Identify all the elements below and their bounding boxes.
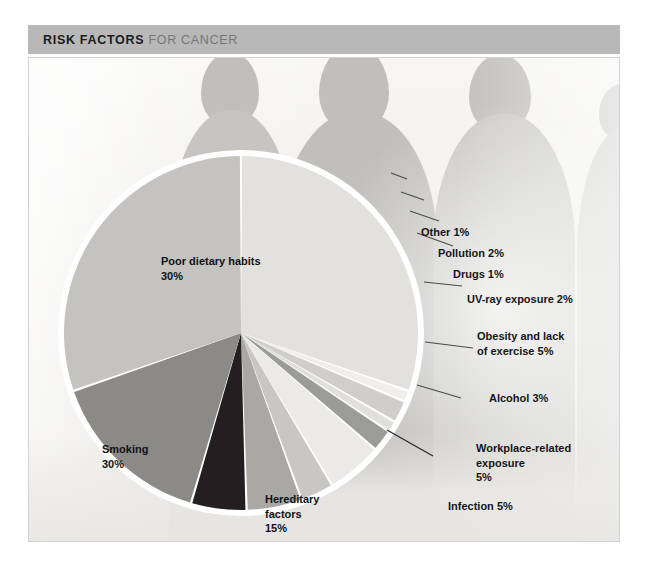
page-title: RISK FACTORS FOR CANCER <box>43 33 238 47</box>
slice-label-smoking: Smoking 30% <box>102 442 148 471</box>
page-title-strong: RISK FACTORS <box>43 33 144 47</box>
slice-label-other: Other 1% <box>421 225 469 240</box>
slice-label-infection: Infection 5% <box>448 499 513 514</box>
slice-label-poor-dietary-habits: Poor dietary habits 30% <box>161 254 261 283</box>
slice-label-uv-ray-exposure: UV-ray exposure 2% <box>467 292 573 307</box>
figure-panel: Poor dietary habits 30% Smoking 30% Here… <box>28 57 620 542</box>
slice-label-hereditary-factors: Hereditary factors 15% <box>265 492 319 536</box>
figure-header-bar: RISK FACTORS FOR CANCER <box>28 25 620 54</box>
slice-label-obesity: Obesity and lack of exercise 5% <box>477 329 564 358</box>
slice-label-alcohol: Alcohol 3% <box>489 391 548 406</box>
slice-label-pollution: Pollution 2% <box>438 246 504 261</box>
slice-label-drugs: Drugs 1% <box>453 267 504 282</box>
figure-page: RISK FACTORS FOR CANCER <box>0 0 646 567</box>
page-title-light-text: FOR CANCER <box>148 33 238 47</box>
slice-label-workplace-exposure: Workplace-related exposure 5% <box>476 441 619 485</box>
